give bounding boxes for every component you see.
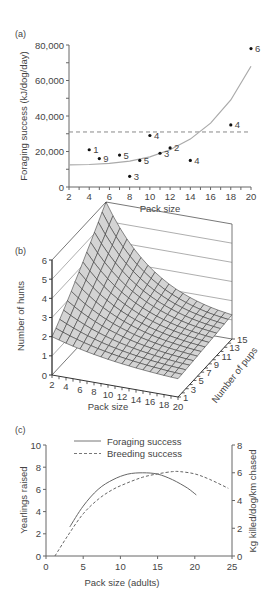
legend-breeding-label: Breeding success — [107, 448, 182, 459]
data-point-label: 3 — [134, 171, 139, 182]
z-tick-label: 4 — [42, 293, 47, 304]
panel-c-right-y-axis-label: Kg killed/dog/km chased — [247, 450, 258, 553]
z-tick-label: 0 — [42, 370, 47, 381]
panel-c-y-axis-label: Yearlings raised — [18, 466, 29, 533]
data-point — [98, 157, 101, 160]
data-point-label: 4 — [194, 155, 199, 166]
x-tick-label: 2 — [66, 191, 71, 202]
panel-a-scatter: (a) 020,00040,00060,00080,00024681012141… — [15, 29, 260, 214]
y-tick-label: 4 — [36, 506, 41, 517]
y-tick-label: 20,000 — [35, 146, 64, 157]
y-tick-label: 80,000 — [35, 40, 64, 51]
data-point — [249, 47, 252, 50]
panel-c-plot-area — [55, 471, 228, 556]
x-tick-label: 6 — [77, 384, 82, 395]
z-tick-label: 6 — [42, 255, 47, 266]
panel-b-tag: (b) — [15, 246, 26, 256]
x-tick-label: 18 — [159, 399, 170, 410]
y-tick-label: 0 — [59, 182, 64, 193]
data-point — [138, 159, 141, 162]
y-tick-label: 10 — [30, 440, 41, 451]
panel-b-z-axis-label: Number of hunts — [15, 281, 26, 351]
x-tick-label: 20 — [190, 561, 201, 572]
x-tick-label: 16 — [145, 396, 156, 407]
x-tick-label: 20 — [173, 401, 184, 412]
data-point — [189, 159, 192, 162]
data-point-label: 4 — [235, 119, 240, 130]
panel-c-x-axis-label: Pack size (adults) — [85, 577, 160, 588]
surface-mesh — [52, 202, 232, 379]
panel-a-tag: (a) — [15, 29, 26, 39]
panel-c-tag: (c) — [15, 425, 26, 435]
right-y-tick-label: 0 — [237, 551, 242, 562]
figure: (a) 020,00040,00060,00080,00024681012141… — [0, 0, 267, 600]
y-tick-label: 1 — [183, 392, 188, 403]
x-tick-label: 10 — [115, 561, 126, 572]
x-tick-label: 12 — [165, 191, 176, 202]
x-tick-label: 4 — [63, 381, 68, 392]
x-tick-label: 15 — [152, 561, 163, 572]
panel-a-plot-area: 19535432446 — [69, 43, 260, 182]
y-tick-label: 8 — [36, 462, 41, 473]
x-tick-label: 20 — [246, 191, 257, 202]
z-tick-label: 3 — [42, 312, 47, 323]
data-point — [158, 152, 161, 155]
panel-c-line: (c) 0246810024680510152025 Foraging succ… — [15, 425, 258, 588]
y-tick-label: 0 — [36, 551, 41, 562]
right-y-tick-label: 2 — [237, 523, 242, 534]
x-tick-label: 8 — [127, 191, 132, 202]
x-tick-label: 5 — [81, 561, 86, 572]
data-point — [128, 175, 131, 178]
data-point-label: 2 — [174, 142, 179, 153]
data-point-label: 4 — [154, 130, 159, 141]
right-y-tick-label: 8 — [237, 440, 242, 451]
y-tick-label: 5 — [198, 375, 203, 386]
y-tick-label: 15 — [237, 334, 248, 345]
data-point-label: 3 — [164, 148, 169, 159]
data-point-label: 1 — [93, 144, 98, 155]
panel-b-y-axis-label: Number of pups — [209, 345, 259, 405]
x-tick-label: 2 — [49, 379, 54, 390]
legend: Foraging success Breeding success — [74, 436, 182, 460]
x-tick-label: 18 — [225, 191, 236, 202]
y-tick-label: 2 — [36, 528, 41, 539]
right-y-tick-label: 6 — [237, 467, 242, 478]
x-tick-label: 0 — [43, 561, 48, 572]
x-tick-label: 10 — [145, 191, 156, 202]
x-tick-label: 4 — [87, 191, 92, 202]
panel-a-y-axis-label: Foraging success (kJ/dog/day) — [18, 51, 29, 180]
panel-b-surface: (b) 0123456246810121416182013579111315 P… — [15, 202, 260, 412]
data-point — [169, 146, 172, 149]
panel-a-x-axis-label: Pack size — [140, 203, 181, 214]
legend-foraging-label: Foraging success — [107, 436, 182, 447]
data-point — [118, 153, 121, 156]
panel-c-axes: 0246810024680510152025 — [30, 440, 242, 573]
z-tick-label: 5 — [42, 274, 47, 285]
x-tick-label: 14 — [185, 191, 196, 202]
panel-a-axes: 020,00040,00060,00080,000246810121416182… — [35, 40, 256, 203]
data-point-label: 9 — [103, 153, 108, 164]
y-tick-label: 6 — [36, 484, 41, 495]
data-point — [229, 123, 232, 126]
data-point — [148, 134, 151, 137]
y-tick-label: 9 — [214, 359, 219, 370]
x-tick-label: 10 — [103, 389, 114, 400]
y-tick-label: 40,000 — [35, 111, 64, 122]
x-tick-label: 6 — [107, 191, 112, 202]
y-tick-label: 3 — [191, 384, 196, 395]
data-point-label: 5 — [144, 155, 149, 166]
x-tick-label: 14 — [131, 394, 142, 405]
panel-b-x-axis-label: Pack size — [88, 401, 129, 412]
right-y-tick-label: 4 — [237, 495, 242, 506]
x-tick-label: 16 — [205, 191, 216, 202]
y-tick-label: 7 — [206, 367, 211, 378]
z-tick-label: 2 — [42, 331, 47, 342]
data-point — [88, 148, 91, 151]
breeding-success-line — [55, 471, 228, 556]
y-tick-label: 60,000 — [35, 75, 64, 86]
data-point-label: 6 — [255, 43, 260, 54]
data-point-label: 5 — [124, 150, 129, 161]
panel-b-plot-area: 0123456246810121416182013579111315 — [42, 202, 248, 412]
z-tick-label: 1 — [42, 350, 47, 361]
x-tick-label: 8 — [91, 386, 96, 397]
